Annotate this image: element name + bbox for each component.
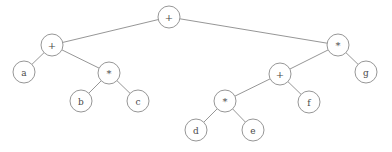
node-label: * [107, 68, 112, 79]
node-label: e [250, 126, 255, 136]
tree-edge [180, 19, 327, 43]
node-layer: ++*a*bc+g*fde [13, 6, 377, 141]
tree-edge [290, 50, 328, 69]
tree-edge [346, 53, 358, 65]
tree-node: * [327, 34, 349, 56]
tree-node: * [98, 62, 120, 84]
tree-edge [288, 82, 301, 95]
tree-node: c [127, 90, 149, 112]
expression-tree-figure: ++*a*bc+g*fde [0, 0, 392, 152]
node-label: + [48, 40, 56, 51]
tree-edge [62, 50, 99, 68]
tree-node: b [70, 90, 92, 112]
tree-node: * [214, 90, 236, 112]
tree-canvas: ++*a*bc+g*fde [0, 0, 392, 152]
tree-edge [32, 53, 44, 65]
node-label: b [78, 97, 84, 107]
tree-edge [204, 109, 217, 122]
tree-node: f [298, 91, 320, 113]
node-label: d [193, 126, 199, 136]
tree-edge [117, 81, 130, 94]
node-label: c [135, 97, 140, 107]
tree-node: e [242, 119, 264, 141]
tree-node: + [158, 6, 180, 28]
node-label: + [276, 69, 284, 80]
node-label: a [21, 68, 27, 78]
node-label: g [363, 68, 369, 78]
tree-node: + [269, 63, 291, 85]
node-label: * [223, 96, 228, 107]
tree-edge [89, 81, 101, 93]
node-label: + [165, 12, 173, 23]
node-label: * [336, 40, 341, 51]
tree-edge [63, 20, 159, 43]
tree-edge [235, 79, 270, 96]
tree-edge [233, 109, 246, 122]
tree-node: + [41, 34, 63, 56]
tree-node: g [355, 61, 377, 83]
tree-node: a [13, 61, 35, 83]
tree-node: d [185, 119, 207, 141]
